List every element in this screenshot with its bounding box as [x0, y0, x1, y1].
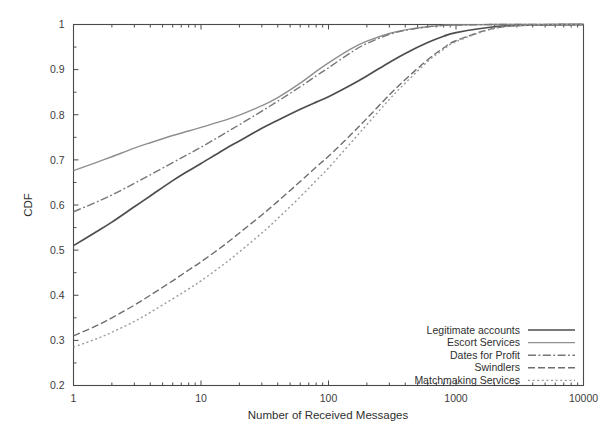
y-tick-label: 0.6	[50, 199, 65, 211]
y-tick-label: 0.4	[50, 289, 65, 301]
x-tick-label: 10	[195, 392, 207, 404]
legend-label-swindlers: Swindlers	[474, 361, 520, 373]
x-tick-label: 1000	[444, 392, 468, 404]
series-line-legitimate-accounts	[74, 25, 584, 246]
y-tick-label: 0.8	[50, 109, 65, 121]
y-tick-label: 0.9	[50, 63, 65, 75]
chart-figure: 0.20.30.40.50.60.70.80.91 11010010001000…	[0, 0, 614, 436]
series-line-matchmaking-services	[74, 24, 584, 347]
legend-label-matchmaking-services: Matchmaking Services	[414, 374, 520, 386]
y-axis-title: CDF	[22, 193, 34, 217]
legend-label-escort-services: Escort Services	[447, 336, 520, 348]
x-tick-label: 1	[71, 392, 77, 404]
legend-label-dates-for-profit: Dates for Profit	[450, 349, 520, 361]
y-tick-label: 0.2	[50, 379, 65, 391]
cdf-line-chart: 0.20.30.40.50.60.70.80.91 11010010001000…	[0, 0, 614, 436]
series-line-dates-for-profit	[74, 24, 584, 211]
y-tick-label: 0.3	[50, 334, 65, 346]
y-tick-label: 0.5	[50, 244, 65, 256]
legend-label-legitimate-accounts: Legitimate accounts	[427, 324, 520, 336]
x-tick-label: 100	[320, 392, 338, 404]
series-line-swindlers	[74, 25, 584, 336]
y-tick-label: 0.7	[50, 154, 65, 166]
x-tick-label: 10000	[569, 392, 598, 404]
chart-legend: Legitimate accountsEscort ServicesDates …	[414, 324, 575, 386]
y-tick-label: 1	[59, 18, 65, 30]
series-lines	[74, 24, 584, 347]
x-axis-title: Number of Received Messages	[248, 409, 409, 421]
